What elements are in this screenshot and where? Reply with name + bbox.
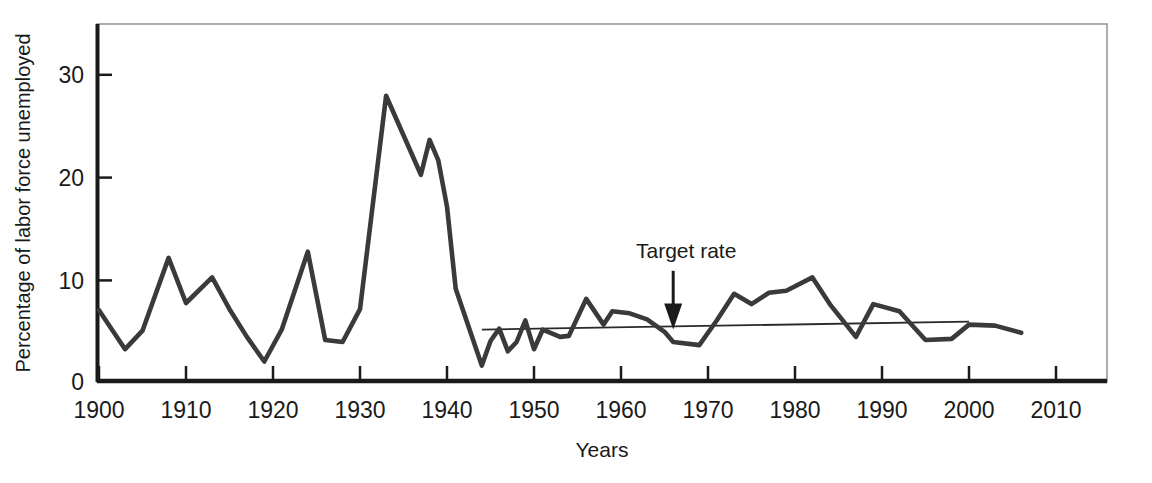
x-tick-label-1950: 1950 xyxy=(508,397,559,423)
unemployment-chart-figure: 30 20 10 0 1900 1910 1920 1930 1940 1950… xyxy=(0,0,1152,483)
x-tick-label-1990: 1990 xyxy=(856,397,907,423)
x-axis-title: Years xyxy=(576,438,629,461)
chart-svg: 30 20 10 0 1900 1910 1920 1930 1940 1950… xyxy=(0,0,1152,483)
y-tick-label-20: 20 xyxy=(58,165,84,191)
y-tick-label-0: 0 xyxy=(71,369,84,395)
x-tick-label-1900: 1900 xyxy=(73,397,124,423)
x-tick-label-1980: 1980 xyxy=(769,397,820,423)
y-tick-label-10: 10 xyxy=(58,268,84,294)
x-tick-label-1940: 1940 xyxy=(421,397,472,423)
x-tick-label-2000: 2000 xyxy=(943,397,994,423)
x-tick-label-1910: 1910 xyxy=(160,397,211,423)
y-tick-label-30: 30 xyxy=(58,62,84,88)
x-tick-label-1960: 1960 xyxy=(595,397,646,423)
x-tick-label-2010: 2010 xyxy=(1030,397,1081,423)
x-tick-label-1930: 1930 xyxy=(334,397,385,423)
x-tick-label-1920: 1920 xyxy=(247,397,298,423)
x-tick-label-1970: 1970 xyxy=(682,397,733,423)
target-rate-annotation-label: Target rate xyxy=(636,239,736,262)
y-axis-title: Percentage of labor force unemployed xyxy=(12,33,34,372)
